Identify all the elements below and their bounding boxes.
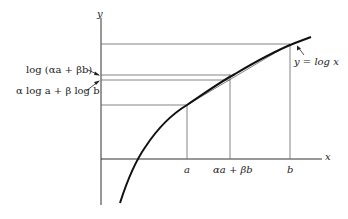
curve-label: y = log x [294,56,339,67]
x-tick-mid: αa + βb [213,164,253,175]
y-axis-label: y [97,8,103,19]
annotation-log-mix: log (αa + βb) [26,64,92,75]
annotation-mix-log: α log a + β log b [16,85,100,96]
x-axis-label: x [325,151,331,162]
arrowhead-icon [94,72,100,76]
x-tick-b: b [287,164,293,175]
x-tick-a: a [184,164,190,175]
concavity-diagram [0,0,348,219]
log-curve [120,37,311,203]
